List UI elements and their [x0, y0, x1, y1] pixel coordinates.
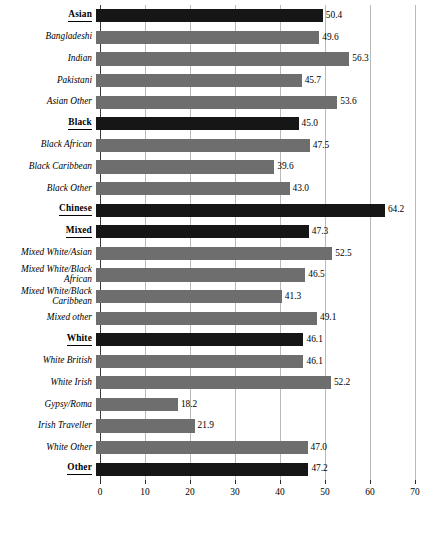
group-label-text: Mixed: [66, 226, 92, 238]
bar: [96, 312, 317, 325]
bar-row: Bangladeshi49.6: [0, 27, 434, 49]
subgroup-label: White British: [0, 356, 96, 366]
bar-track: 52.2: [96, 372, 434, 394]
x-tick-label: 30: [230, 487, 239, 497]
bar-track: 47.2: [96, 458, 434, 480]
bar-track: 46.1: [96, 329, 434, 351]
bar-track: 45.7: [96, 70, 434, 92]
x-tickmark: [325, 480, 326, 484]
subgroup-label: Indian: [0, 54, 96, 64]
bar-row: Indian56.3: [0, 48, 434, 70]
subgroup-label: Pakistani: [0, 76, 96, 86]
bar-track: 43.0: [96, 178, 434, 200]
x-tick-label: 50: [320, 487, 329, 497]
group-label-text: Chinese: [59, 204, 92, 216]
bar: [96, 333, 303, 346]
bar-value-label: 46.1: [303, 333, 322, 346]
bar-track: 52.5: [96, 243, 434, 265]
bar: [96, 376, 331, 389]
bar-value-label: 45.7: [302, 74, 321, 87]
bar: [96, 74, 302, 87]
bar-track: 45.0: [96, 113, 434, 135]
bar-value-label: 47.0: [308, 441, 327, 454]
bar-value-label: 53.6: [337, 95, 356, 108]
x-tickmark: [100, 480, 101, 484]
group-label: Black: [0, 118, 96, 130]
subgroup-label: White Irish: [0, 378, 96, 388]
x-tickmark: [280, 480, 281, 484]
bar-track: 18.2: [96, 394, 434, 416]
bar: [96, 355, 303, 368]
bar-value-label: 49.6: [319, 31, 338, 44]
subgroup-label: Irish Traveller: [0, 421, 96, 431]
bar-row: Chinese64.2: [0, 199, 434, 221]
subgroup-label: Mixed White/Black Caribbean: [0, 287, 96, 307]
bar-value-label: 47.2: [308, 462, 327, 475]
bar: [96, 225, 309, 238]
bar: [96, 9, 323, 22]
bar: [96, 441, 308, 454]
x-tick-label: 10: [140, 487, 149, 497]
bar: [96, 139, 310, 152]
bar-row: White Irish52.2: [0, 372, 434, 394]
bar-row: Mixed White/Asian52.5: [0, 243, 434, 265]
bar: [96, 290, 282, 303]
bar-value-label: 52.5: [332, 247, 351, 260]
bar-row: Other47.2: [0, 458, 434, 480]
bar-rows-container: Asian50.4Bangladeshi49.6Indian56.3Pakist…: [0, 5, 434, 480]
x-tick-label: 0: [98, 487, 103, 497]
x-tickmark: [190, 480, 191, 484]
x-tick-label: 20: [185, 487, 194, 497]
bar-row: Black Caribbean39.6: [0, 156, 434, 178]
bar-value-label: 46.5: [305, 268, 324, 281]
bar-value-label: 21.9: [195, 419, 214, 432]
bar-value-label: 43.0: [290, 182, 309, 195]
bar-value-label: 45.0: [299, 117, 318, 130]
bar-value-label: 56.3: [349, 52, 368, 65]
bar-value-label: 39.6: [274, 160, 293, 173]
subgroup-label: Gypsy/Roma: [0, 400, 96, 410]
bar-row: Gypsy/Roma18.2: [0, 394, 434, 416]
bar-row: Mixed White/Black African46.5: [0, 264, 434, 286]
group-label-text: Asian: [68, 10, 92, 22]
bar-track: 47.5: [96, 135, 434, 157]
group-label-text: White: [67, 334, 92, 346]
bar-row: Irish Traveller21.9: [0, 415, 434, 437]
x-tick-label: 60: [365, 487, 374, 497]
bar: [96, 398, 178, 411]
bar-track: 47.0: [96, 437, 434, 459]
bar-value-label: 41.3: [282, 290, 301, 303]
bar-row: Asian Other53.6: [0, 91, 434, 113]
bar-row: White46.1: [0, 329, 434, 351]
bar: [96, 117, 299, 130]
group-label-text: Other: [67, 463, 92, 475]
bar: [96, 463, 308, 476]
bar-track: 46.1: [96, 351, 434, 373]
group-label: Other: [0, 463, 96, 475]
x-tickmark: [145, 480, 146, 484]
bar-row: White British46.1: [0, 351, 434, 373]
bar-chart-figure: Asian50.4Bangladeshi49.6Indian56.3Pakist…: [0, 0, 434, 539]
bar: [96, 247, 332, 260]
group-label: Chinese: [0, 204, 96, 216]
bar-track: 50.4: [96, 5, 434, 27]
bar-value-label: 18.2: [178, 398, 197, 411]
bar-row: Black Other43.0: [0, 178, 434, 200]
bar: [96, 182, 290, 195]
group-label-text: Black: [68, 118, 92, 130]
bar: [96, 96, 337, 109]
bar-row: Mixed other49.1: [0, 307, 434, 329]
bar-row: Black African47.5: [0, 135, 434, 157]
subgroup-label: Mixed other: [0, 313, 96, 323]
x-tickmark: [415, 480, 416, 484]
bar-track: 49.1: [96, 307, 434, 329]
x-tick-label: 70: [410, 487, 419, 497]
subgroup-label: Asian Other: [0, 97, 96, 107]
x-tickmark: [235, 480, 236, 484]
bar-row: Asian50.4: [0, 5, 434, 27]
subgroup-label: Bangladeshi: [0, 32, 96, 42]
group-label: Mixed: [0, 226, 96, 238]
subgroup-label: Black Caribbean: [0, 162, 96, 172]
bar-track: 21.9: [96, 415, 434, 437]
bar-value-label: 50.4: [323, 9, 342, 22]
